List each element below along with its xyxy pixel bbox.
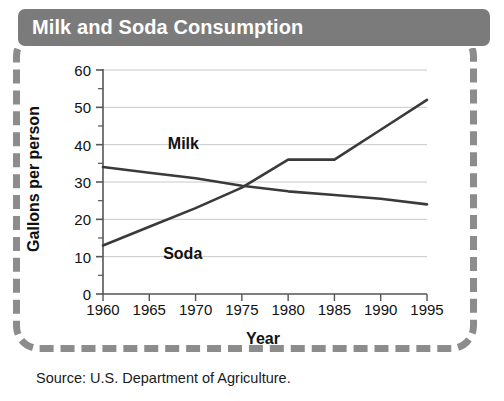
series-label-milk: Milk <box>168 135 199 153</box>
gridlines <box>103 70 427 257</box>
x-axis-title: Year <box>95 330 431 348</box>
y-tick-label: 0 <box>55 286 91 303</box>
y-tick-label: 60 <box>55 62 91 79</box>
x-tick-label: 1985 <box>318 301 351 318</box>
line-chart: Gallons per person Year 0102030405060 19… <box>0 0 504 401</box>
series-label-soda: Soda <box>163 245 202 263</box>
x-tick-label: 1970 <box>179 301 212 318</box>
y-tick-label: 40 <box>55 136 91 153</box>
x-tick-label: 1995 <box>410 301 443 318</box>
x-tick-label: 1990 <box>364 301 397 318</box>
x-axis-ticks <box>103 294 427 301</box>
x-tick-label: 1965 <box>133 301 166 318</box>
data-series-lines <box>103 100 427 246</box>
y-axis-major-ticks <box>96 70 103 294</box>
y-axis-title: Gallons per person <box>25 99 43 259</box>
x-tick-label: 1980 <box>271 301 304 318</box>
y-tick-label: 20 <box>55 211 91 228</box>
x-tick-label: 1960 <box>86 301 119 318</box>
y-tick-label: 10 <box>55 248 91 265</box>
y-tick-label: 30 <box>55 174 91 191</box>
x-tick-label: 1975 <box>225 301 258 318</box>
y-tick-label: 50 <box>55 99 91 116</box>
source-caption: Source: U.S. Department of Agriculture. <box>36 370 291 386</box>
